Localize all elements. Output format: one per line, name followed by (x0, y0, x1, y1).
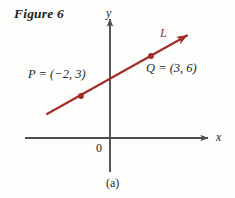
line-label-l: L (160, 27, 167, 40)
point-label-q: Q = (3, 6) (146, 62, 197, 75)
point-marker-P (78, 93, 84, 99)
coordinate-plane-graphic (0, 0, 235, 198)
y-axis-label: y (106, 7, 111, 19)
figure-title: Figure 6 (14, 7, 64, 21)
figure-panel: Figure 6 P = (−2, 3) Q = (3, 6) L y x 0 … (0, 0, 235, 198)
origin-label: 0 (96, 142, 102, 154)
point-label-p: P = (−2, 3) (28, 68, 86, 81)
point-marker-Q (148, 53, 154, 59)
x-axis-label: x (216, 131, 221, 143)
figure-caption: (a) (106, 177, 119, 189)
